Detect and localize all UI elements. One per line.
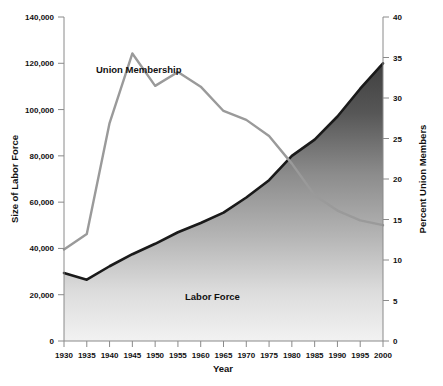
left-tick-label: 20,000 bbox=[30, 291, 55, 300]
labor-force-label: Labor Force bbox=[185, 291, 240, 302]
right-tick-label: 25 bbox=[393, 135, 402, 144]
right-tick-label: 40 bbox=[393, 13, 402, 22]
right-tick-label: 35 bbox=[393, 54, 402, 63]
left-tick-label: 0 bbox=[50, 337, 55, 346]
left-tick-label: 40,000 bbox=[30, 244, 55, 253]
x-tick-label: 1945 bbox=[123, 351, 141, 360]
labor-force-union-membership-chart: 020,00040,00060,00080,000100,000120,0001… bbox=[0, 0, 443, 386]
right-tick-label: 15 bbox=[393, 216, 402, 225]
right-tick-label: 30 bbox=[393, 94, 402, 103]
x-tick-label: 1985 bbox=[306, 351, 324, 360]
x-tick-label: 1930 bbox=[55, 351, 73, 360]
right-tick-label: 10 bbox=[393, 256, 402, 265]
x-tick-label: 1950 bbox=[146, 351, 164, 360]
y-axis-title: Size of Labor Force bbox=[9, 135, 20, 223]
right-tick-label: 0 bbox=[393, 337, 398, 346]
right-tick-label: 20 bbox=[393, 175, 402, 184]
left-tick-label: 60,000 bbox=[30, 198, 55, 207]
x-tick-label: 1980 bbox=[283, 351, 301, 360]
chart-container: 020,00040,00060,00080,000100,000120,0001… bbox=[0, 0, 443, 386]
x-tick-label: 1955 bbox=[169, 351, 187, 360]
x-tick-label: 1935 bbox=[78, 351, 96, 360]
x-tick-label: 1940 bbox=[101, 351, 119, 360]
left-tick-label: 140,000 bbox=[25, 13, 54, 22]
x-tick-label: 2000 bbox=[374, 351, 392, 360]
left-tick-label: 100,000 bbox=[25, 106, 54, 115]
left-tick-label: 120,000 bbox=[25, 59, 54, 68]
x-tick-label: 1970 bbox=[237, 351, 255, 360]
x-tick-label: 1975 bbox=[260, 351, 278, 360]
x-tick-label: 1960 bbox=[192, 351, 210, 360]
left-tick-label: 80,000 bbox=[30, 152, 55, 161]
x-tick-label: 1990 bbox=[329, 351, 347, 360]
x-tick-label: 1995 bbox=[351, 351, 369, 360]
right-tick-label: 5 bbox=[393, 297, 398, 306]
y2-axis-title: Percent Union Members bbox=[417, 125, 428, 234]
x-tick-label: 1965 bbox=[215, 351, 233, 360]
x-axis-title: Year bbox=[213, 363, 233, 374]
union-membership-label: Union Membership bbox=[96, 64, 182, 75]
